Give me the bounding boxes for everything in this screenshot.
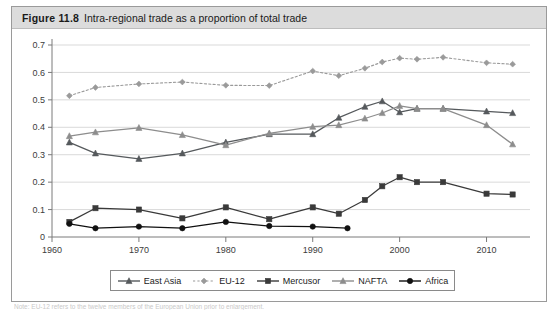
figure-caption-bar: Figure 11.8 Intra-regional trade as a pr… — [12, 7, 546, 29]
data-point-diamond — [440, 54, 446, 60]
data-point-diamond — [397, 55, 403, 61]
data-point-square — [223, 205, 228, 210]
x-axis-tick-label: 1970 — [129, 245, 149, 255]
data-point-circle — [67, 221, 72, 226]
data-point-square — [440, 180, 445, 185]
x-axis-tick-label: 2010 — [477, 245, 497, 255]
data-point-diamond — [66, 93, 72, 99]
data-point-square — [380, 184, 385, 189]
data-point-diamond — [93, 85, 99, 91]
data-point-circle — [180, 226, 185, 231]
data-point-diamond — [201, 278, 207, 284]
data-point-circle — [223, 219, 228, 224]
data-point-circle — [310, 224, 315, 229]
y-axis-tick-label: 0.3 — [32, 150, 45, 160]
data-point-triangle — [397, 103, 403, 109]
data-point-square — [267, 217, 272, 222]
series-line — [69, 106, 512, 145]
series-eu-12 — [66, 54, 515, 98]
legend-entry-mercusor[interactable]: Mercusor — [256, 276, 321, 286]
legend-marker-icon — [192, 276, 216, 286]
y-axis-tick-label: 0.5 — [32, 95, 45, 105]
y-axis-tick-label: 0.4 — [32, 122, 45, 132]
series-line — [69, 57, 512, 95]
y-axis-tick-label: 0.6 — [32, 68, 45, 78]
series-line — [69, 177, 512, 222]
legend-label: Mercusor — [283, 276, 321, 286]
y-axis-tick-label: 0 — [40, 232, 45, 242]
line-chart: 00.10.20.30.40.50.60.7196019701980199020… — [12, 29, 548, 302]
data-point-square — [510, 192, 515, 197]
data-point-circle — [93, 226, 98, 231]
data-point-square — [265, 278, 270, 283]
series-africa — [67, 219, 351, 231]
data-point-diamond — [136, 81, 142, 87]
data-point-diamond — [414, 56, 420, 62]
series-line — [69, 222, 347, 228]
y-axis-tick-label: 0.2 — [32, 177, 45, 187]
data-point-square — [93, 206, 98, 211]
data-point-diamond — [379, 59, 385, 65]
data-point-diamond — [484, 60, 490, 66]
legend-marker-icon — [117, 276, 141, 286]
data-point-diamond — [223, 82, 229, 88]
figure-container: Figure 11.8 Intra-regional trade as a pr… — [11, 6, 547, 302]
data-point-square — [362, 197, 367, 202]
x-axis-tick-label: 1960 — [42, 245, 62, 255]
figure-number: Figure 11.8 — [22, 12, 79, 24]
y-axis-tick-label: 0.1 — [32, 205, 45, 215]
figure-caption-text: Intra-regional trade as a proportion of … — [84, 12, 307, 24]
data-point-square — [136, 207, 141, 212]
legend-entry-eu-12[interactable]: EU-12 — [192, 276, 245, 286]
chart-plot-area: 00.10.20.30.40.50.60.7196019701980199020… — [12, 29, 548, 302]
legend-label: Africa — [425, 276, 448, 286]
x-axis-tick-label: 2000 — [390, 245, 410, 255]
data-point-square — [336, 211, 341, 216]
data-point-diamond — [336, 73, 342, 79]
data-point-triangle — [66, 139, 72, 145]
data-point-triangle — [379, 98, 385, 104]
data-point-square — [484, 191, 489, 196]
data-point-diamond — [510, 61, 516, 67]
data-point-square — [310, 205, 315, 210]
figure-footnote: Note: EU-12 refers to the twelve members… — [14, 303, 544, 310]
data-point-circle — [267, 223, 272, 228]
data-point-diamond — [266, 83, 272, 89]
data-point-square — [414, 180, 419, 185]
legend-label: East Asia — [144, 276, 182, 286]
y-axis-tick-label: 0.7 — [32, 40, 45, 50]
x-axis-tick-label: 1980 — [216, 245, 236, 255]
legend-entry-east-asia[interactable]: East Asia — [117, 276, 182, 286]
legend-label: EU-12 — [219, 276, 245, 286]
data-point-diamond — [179, 79, 185, 85]
data-point-circle — [136, 224, 141, 229]
legend-label: NAFTA — [358, 276, 387, 286]
legend-marker-icon — [256, 276, 280, 286]
data-point-diamond — [362, 65, 368, 71]
x-axis-tick-label: 1990 — [303, 245, 323, 255]
legend-marker-icon — [398, 276, 422, 286]
legend-entry-africa[interactable]: Africa — [398, 276, 448, 286]
legend-marker-icon — [331, 276, 355, 286]
chart-legend: East AsiaEU-12MercusorNAFTAAfrica — [110, 270, 455, 291]
data-point-circle — [345, 226, 350, 231]
data-point-square — [397, 175, 402, 180]
data-point-diamond — [310, 68, 316, 74]
data-point-square — [180, 216, 185, 221]
data-point-circle — [407, 278, 412, 283]
data-point-triangle — [510, 141, 516, 147]
legend-entry-nafta[interactable]: NAFTA — [331, 276, 387, 286]
